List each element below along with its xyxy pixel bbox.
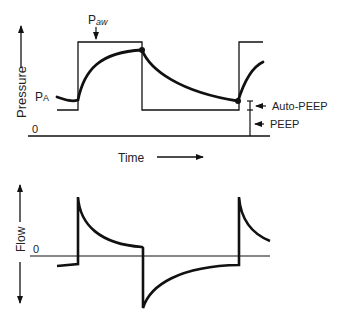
- pa-label: PA: [35, 90, 49, 104]
- end-inspiration-dot: [139, 47, 145, 53]
- time-axis-label: Time: [118, 151, 145, 165]
- pressure-axis-label: Pressure: [14, 66, 29, 118]
- flow-zero-label: 0: [33, 243, 39, 255]
- ventilation-waveform-diagram: Pressure 0 Paw PA Auto-PEEP PEEP Time: [0, 0, 338, 321]
- pressure-zero-label: 0: [32, 123, 38, 135]
- end-expiration-dot: [235, 98, 241, 104]
- flow-waveform: [57, 197, 270, 308]
- paw-label: Paw: [88, 13, 108, 27]
- auto-peep-label: Auto-PEEP: [272, 100, 328, 112]
- pressure-panel: Pressure 0 Paw PA Auto-PEEP PEEP Time: [14, 13, 328, 165]
- peep-label: PEEP: [270, 118, 299, 130]
- flow-panel: Flow 0: [14, 185, 270, 308]
- flow-axis-label: Flow: [14, 226, 28, 252]
- alveolar-pressure-curve: [57, 50, 263, 101]
